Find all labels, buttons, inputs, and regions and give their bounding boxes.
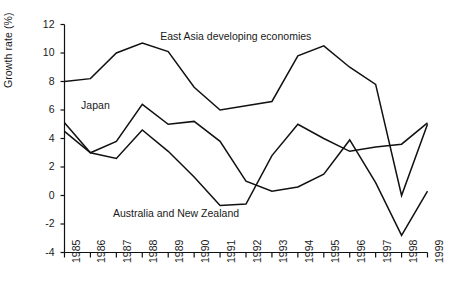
x-tick-label: 1990 (199, 239, 211, 262)
x-tick-label: 1996 (355, 239, 367, 262)
y-tick-label: 8 (29, 75, 55, 87)
series-line (65, 43, 428, 195)
series-label: East Asia developing economies (160, 30, 311, 42)
x-tick-label: 1987 (121, 239, 133, 262)
y-tick-label: 10 (29, 46, 55, 58)
series-line (65, 123, 428, 206)
y-tick-label: 0 (29, 189, 55, 201)
x-tick-label: 1985 (70, 239, 82, 262)
x-tick-label: 1994 (303, 239, 315, 262)
x-tick-label: 1992 (251, 239, 263, 262)
x-tick-marks (65, 253, 428, 258)
growth-rate-line-chart: Growth rate (%) -4-2024681012 1985198619… (0, 0, 451, 308)
x-tick-label: 1998 (407, 239, 419, 262)
x-tick-label: 1986 (95, 239, 107, 262)
y-tick-label: 2 (29, 160, 55, 172)
series-label: Japan (81, 99, 110, 111)
y-tick-label: -4 (29, 246, 55, 258)
y-axis-title: Growth rate (%) (2, 0, 14, 88)
x-tick-label: 1991 (225, 239, 237, 262)
series-label: Australia and New Zealand (113, 207, 239, 219)
x-tick-label: 1999 (433, 239, 445, 262)
x-tick-label: 1989 (173, 239, 185, 262)
x-tick-label: 1995 (329, 239, 341, 262)
x-tick-label: 1997 (381, 239, 393, 262)
y-tick-label: 12 (29, 18, 55, 30)
y-tick-label: -2 (29, 217, 55, 229)
x-tick-label: 1988 (147, 239, 159, 262)
y-tick-label: 6 (29, 103, 55, 115)
x-tick-label: 1993 (277, 239, 289, 262)
y-tick-label: 4 (29, 132, 55, 144)
